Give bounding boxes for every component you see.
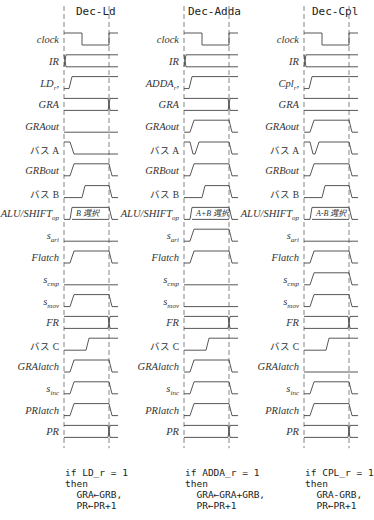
waveform-graout <box>304 120 358 132</box>
waveform-clock <box>304 33 358 45</box>
signal-label-op_r: Cplr, <box>278 78 299 92</box>
waveform-s_mov <box>64 295 118 307</box>
waveform-s_inc <box>304 382 358 394</box>
panel-dec-adda: Dec-Adda A+B 選択clockIRADDAr,GRAGRAoutバス … <box>120 0 242 520</box>
panel-dec-cpl: Dec-Cpl A-B 選択clockIRCplr,GRAGRAoutバス AG… <box>240 0 362 520</box>
waveform-fr <box>184 316 238 328</box>
waveform-aluop: A-B 選択 <box>304 207 358 219</box>
waveform-aluop: A+B 選択 <box>184 207 238 219</box>
signal-label-op_r: ADDAr, <box>146 78 179 92</box>
waveform-ir <box>304 55 358 67</box>
signal-label-clock: clock <box>157 34 179 45</box>
signal-label-gralatch: GRAlatch <box>138 361 179 372</box>
signal-label-gra: GRA <box>159 99 179 110</box>
signal-label-clock: clock <box>277 34 299 45</box>
signal-label-ir: IR <box>289 56 299 67</box>
signal-label-clock: clock <box>37 34 59 45</box>
alu-operation-text: A+B 選択 <box>195 209 230 218</box>
signal-label-s_cmp: scmp <box>163 274 179 288</box>
signal-label-graout: GRAout <box>145 121 179 132</box>
waveform-flatch <box>184 251 238 263</box>
waveform-prlatch <box>64 404 118 416</box>
signal-label-busc: バス C <box>30 339 59 353</box>
panel-note: if CPL_r = 1 then GRA-GRB, PR←PR+1 <box>305 467 374 511</box>
waveform-fr <box>64 316 118 328</box>
signal-label-busb: バス B <box>150 187 179 201</box>
signal-label-busc: バス C <box>150 339 179 353</box>
waveform-gra <box>304 98 358 110</box>
signal-label-prlatch: PRlatch <box>265 405 299 416</box>
signal-label-pr: PR <box>166 426 179 437</box>
signal-label-s_ari: sari <box>47 230 59 244</box>
waveform-busa <box>304 142 358 154</box>
waveform-grbout <box>64 164 118 176</box>
waveform-clock <box>184 33 238 45</box>
waveform-grbout <box>184 164 238 176</box>
waveform-busb <box>304 186 358 198</box>
waveform-graout <box>184 120 238 132</box>
waveform-busc <box>304 338 358 350</box>
signal-label-s_cmp: scmp <box>283 274 299 288</box>
waveform-canvas: A-B 選択 <box>240 0 362 520</box>
signal-label-prlatch: PRlatch <box>145 405 179 416</box>
signal-label-ir: IR <box>169 56 179 67</box>
waveform-prlatch <box>304 404 358 416</box>
waveform-busc <box>64 338 118 350</box>
waveform-pr <box>64 425 118 437</box>
signal-label-pr: PR <box>286 426 299 437</box>
waveform-pr <box>304 425 358 437</box>
signal-label-gralatch: GRAlatch <box>18 361 59 372</box>
signal-label-gra: GRA <box>39 99 59 110</box>
signal-label-grbout: GRBout <box>265 165 299 176</box>
signal-label-gralatch: GRAlatch <box>258 361 299 372</box>
waveform-fr <box>304 316 358 328</box>
signal-label-gra: GRA <box>279 99 299 110</box>
signal-label-s_inc: sinc <box>46 383 59 397</box>
signal-label-s_ari: sari <box>287 230 299 244</box>
waveform-op_r <box>64 77 118 89</box>
waveform-grbout <box>304 164 358 176</box>
waveform-canvas: B 選択 <box>0 0 122 520</box>
waveform-busa <box>184 142 238 154</box>
waveform-pr <box>184 425 238 437</box>
signal-label-flatch: Flatch <box>32 252 59 263</box>
waveform-busa <box>64 142 118 154</box>
signal-label-s_ari: sari <box>167 230 179 244</box>
waveform-s_cmp <box>304 273 358 285</box>
waveform-gra <box>184 98 238 110</box>
signal-label-grbout: GRBout <box>25 165 59 176</box>
signal-label-ir: IR <box>49 56 59 67</box>
panel-note: if LD_r = 1 then GRA←GRB, PR←PR+1 <box>65 467 128 511</box>
signal-label-s_mov: smov <box>43 296 59 310</box>
signal-label-busc: バス C <box>270 339 299 353</box>
waveform-canvas: A+B 選択 <box>120 0 242 520</box>
signal-label-s_cmp: scmp <box>43 274 59 288</box>
waveform-busb <box>64 186 118 198</box>
signal-label-flatch: Flatch <box>272 252 299 263</box>
signal-label-graout: GRAout <box>265 121 299 132</box>
waveform-s_inc <box>64 382 118 394</box>
waveform-ir <box>64 55 118 67</box>
waveform-s_ari <box>184 229 238 241</box>
signal-label-busa: バス A <box>150 143 179 157</box>
signal-label-aluop: ALU/SHIFTop <box>121 208 179 222</box>
waveform-clock <box>64 33 118 45</box>
waveform-aluop: B 選択 <box>64 207 118 219</box>
waveform-gra <box>64 98 118 110</box>
signal-label-pr: PR <box>46 426 59 437</box>
waveform-s_inc <box>184 382 238 394</box>
signal-label-aluop: ALU/SHIFTop <box>1 208 59 222</box>
waveform-ir <box>184 55 238 67</box>
waveform-s_mov <box>304 295 358 307</box>
waveform-gralatch <box>184 360 238 372</box>
signal-label-busa: バス A <box>270 143 299 157</box>
waveform-op_r <box>304 77 358 89</box>
waveform-gralatch <box>64 360 118 372</box>
signal-label-aluop: ALU/SHIFTop <box>241 208 299 222</box>
signal-label-grbout: GRBout <box>145 165 179 176</box>
signal-label-fr: FR <box>46 317 59 328</box>
waveform-prlatch <box>184 404 238 416</box>
waveform-busc <box>184 338 238 350</box>
signal-label-s_inc: sinc <box>286 383 299 397</box>
